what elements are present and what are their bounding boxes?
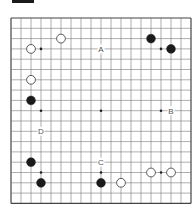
star-point (40, 48, 43, 51)
black-stone (167, 45, 176, 54)
position-labels: ABCD (38, 44, 175, 167)
black-stone (27, 96, 36, 105)
white-stone (57, 34, 66, 43)
white-stone (147, 168, 156, 177)
point-label-a: A (98, 45, 104, 54)
white-stone (117, 178, 126, 187)
star-point (40, 109, 43, 112)
white-stone (27, 45, 36, 54)
black-stone (147, 34, 156, 43)
black-stone (97, 178, 106, 187)
white-stone (27, 75, 36, 84)
go-board: ABCD (0, 0, 195, 211)
star-point (100, 171, 103, 174)
point-label-b: B (168, 107, 173, 116)
star-point (100, 109, 103, 112)
black-stone (27, 158, 36, 167)
star-point (160, 48, 163, 51)
star-point (40, 171, 43, 174)
star-point (160, 171, 163, 174)
point-label-d: D (38, 127, 44, 136)
black-stone (37, 178, 46, 187)
star-point (160, 109, 163, 112)
point-label-c: C (98, 158, 104, 167)
white-stone (167, 168, 176, 177)
